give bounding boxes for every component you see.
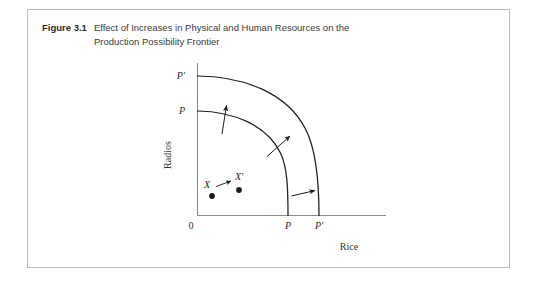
x-axis-title: Rice xyxy=(340,241,359,252)
origin-label: 0 xyxy=(189,220,194,231)
data-point-x xyxy=(209,193,215,199)
x-tick-label-p: P xyxy=(284,220,291,231)
shift-arrow-upper-icon xyxy=(222,106,227,135)
figure-container: Figure 3.1 Effect of Increases in Physic… xyxy=(27,9,510,268)
frontier-curve-p xyxy=(198,111,289,216)
point-shift-arrow-icon xyxy=(216,181,231,187)
frontier-curve-p-prime xyxy=(198,76,320,216)
ppf-chart: P' P P P' 0 Rice Radios X X' xyxy=(28,10,511,269)
x-tick-label-p-prime: P' xyxy=(314,220,324,231)
data-point-x-label: X xyxy=(203,179,211,190)
data-point-x-prime xyxy=(236,187,242,193)
y-tick-label-p: P xyxy=(178,105,185,116)
shift-arrow-lower-icon xyxy=(292,191,316,197)
data-point-x-prime-label: X' xyxy=(234,171,244,182)
y-tick-label-p-prime: P' xyxy=(176,70,186,81)
y-axis-title: Radios xyxy=(162,141,173,169)
